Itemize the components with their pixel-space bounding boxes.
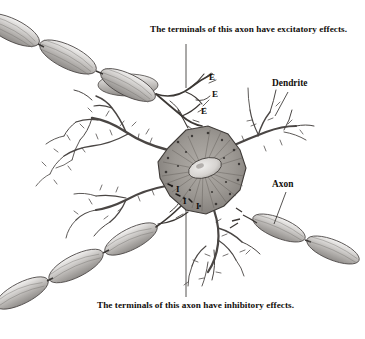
marker-excitatory-1: E <box>209 72 215 82</box>
marker-excitatory-3: E <box>201 106 207 116</box>
marker-inhibitory-2: I <box>183 196 187 206</box>
caption-excitatory: The terminals of this axon have excitato… <box>150 24 350 35</box>
neuron-illustration <box>0 0 365 339</box>
marker-inhibitory-3: I <box>196 201 200 211</box>
neuron-diagram-figure: The terminals of this axon have excitato… <box>0 0 365 339</box>
label-dendrite: Dendrite <box>272 78 307 88</box>
marker-excitatory-2: E <box>212 89 218 99</box>
marker-inhibitory-1: I <box>176 184 180 194</box>
label-axon: Axon <box>272 179 293 189</box>
caption-inhibitory: The terminals of this axon have inhibito… <box>97 300 297 311</box>
